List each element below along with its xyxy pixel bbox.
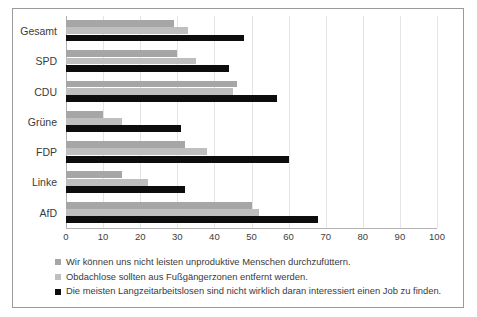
gridline-100 [437,16,438,228]
plot-area: GesamtSPDCDUGrüneFDPLinkeAfD [66,16,437,228]
bar-cdu-series-1 [66,81,237,88]
bar-grüne-series-1 [66,111,103,118]
x-axis-line [66,228,437,229]
legend-item-2: Obdachlose sollten aus Fußgängerzonen en… [55,271,461,284]
legend-label-1: Wir können uns nicht leisten unproduktiv… [66,256,351,268]
bar-cdu-series-3 [66,95,277,102]
bar-gesamt-series-2 [66,27,188,34]
x-tick-label-0: 0 [63,231,68,242]
y-axis-label-spd: SPD [35,46,57,76]
y-axis-label-cdu: CDU [34,77,57,107]
bar-cdu-series-2 [66,88,233,95]
bar-gesamt-series-1 [66,20,174,27]
y-axis-label-afd: AfD [39,198,57,228]
x-tick-label-100: 100 [429,231,445,242]
bar-fdp-series-3 [66,156,289,163]
bar-afd-series-2 [66,209,259,216]
bar-grüne-series-3 [66,125,181,132]
bar-linke-series-1 [66,171,122,178]
x-tick-label-80: 80 [358,231,369,242]
bar-group-gesamt: Gesamt [66,16,437,46]
x-tick-label-60: 60 [283,231,294,242]
y-axis-label-grüne: Grüne [28,107,57,137]
bar-group-spd: SPD [66,46,437,76]
y-axis-label-linke: Linke [32,167,57,197]
y-axis-label-gesamt: Gesamt [20,16,57,46]
legend-swatch-series-1 [55,259,61,265]
legend-label-3: Die meisten Langzeitarbeitslosen sind ni… [66,285,441,297]
bar-gesamt-series-3 [66,35,244,42]
bar-afd-series-1 [66,202,252,209]
x-tick-label-30: 30 [172,231,183,242]
chart-screenshot: GesamtSPDCDUGrüneFDPLinkeAfD 01020304050… [0,0,477,317]
bar-group-afd: AfD [66,198,437,228]
legend-swatch-series-3 [55,289,61,295]
bar-group-cdu: CDU [66,77,437,107]
bar-grüne-series-2 [66,118,122,125]
bar-linke-series-3 [66,186,185,193]
x-tick-label-70: 70 [320,231,331,242]
chart-legend: Wir können uns nicht leisten unproduktiv… [55,256,461,300]
x-tick-label-10: 10 [98,231,109,242]
bar-spd-series-3 [66,65,229,72]
bar-group-grüne: Grüne [66,107,437,137]
x-tick-label-40: 40 [209,231,220,242]
x-tick-label-50: 50 [246,231,257,242]
bar-group-linke: Linke [66,167,437,197]
x-axis-ticks: 0102030405060708090100 [66,231,437,247]
legend-item-1: Wir können uns nicht leisten unproduktiv… [55,256,461,269]
bar-afd-series-3 [66,216,318,223]
bar-group-fdp: FDP [66,137,437,167]
bar-spd-series-2 [66,58,196,65]
x-tick-label-20: 20 [135,231,146,242]
legend-item-3: Die meisten Langzeitarbeitslosen sind ni… [55,285,461,298]
legend-swatch-series-2 [55,274,61,280]
x-tick-label-90: 90 [395,231,406,242]
bar-linke-series-2 [66,179,148,186]
bar-spd-series-1 [66,50,177,57]
legend-label-2: Obdachlose sollten aus Fußgängerzonen en… [66,271,308,283]
bar-fdp-series-2 [66,148,207,155]
y-axis-label-fdp: FDP [36,137,57,167]
bar-fdp-series-1 [66,141,185,148]
